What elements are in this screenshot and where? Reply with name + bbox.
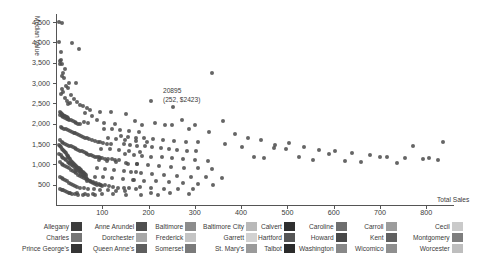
data-point	[149, 99, 153, 103]
data-point	[98, 110, 102, 114]
legend-item-label: Garrett	[224, 234, 247, 241]
data-point	[297, 155, 301, 159]
data-point	[163, 123, 167, 127]
data-point	[167, 147, 171, 151]
data-point	[149, 186, 153, 190]
data-point	[145, 140, 149, 144]
legend-item-label: Frederick	[156, 234, 185, 241]
data-point	[108, 147, 112, 151]
y-tick-mark	[53, 63, 56, 64]
legend-swatch	[136, 244, 147, 253]
legend-item[interactable]: Somerset	[155, 243, 196, 254]
data-point	[185, 149, 189, 153]
data-point	[150, 172, 154, 176]
data-point	[93, 175, 97, 179]
data-point	[176, 187, 180, 191]
legend-item[interactable]: Calvert	[258, 221, 295, 232]
data-point	[436, 158, 440, 162]
data-point	[109, 110, 113, 114]
legend-column: CarolineHowardWashington	[299, 221, 347, 254]
data-point	[105, 159, 109, 163]
legend-column: AlleganyCharlesPrince George's	[22, 221, 82, 254]
legend-item[interactable]: Hartford	[258, 232, 295, 243]
data-point	[90, 114, 94, 118]
legend-item-label: Worcester	[420, 245, 452, 252]
legend-swatch	[452, 233, 463, 242]
legend-item[interactable]: Montgomery	[413, 232, 463, 243]
data-point	[122, 142, 126, 146]
legend-item-label: Prince George's	[22, 245, 71, 252]
legend-item[interactable]: Wicomico	[355, 243, 397, 254]
data-point	[133, 119, 137, 123]
x-axis-line	[56, 205, 454, 206]
legend-item[interactable]: Baltimore	[155, 221, 196, 232]
legend-item[interactable]: St. Mary's	[203, 243, 257, 254]
data-point	[66, 86, 70, 90]
data-point	[66, 102, 70, 106]
data-point	[134, 139, 138, 143]
data-point	[421, 157, 425, 161]
data-point	[154, 179, 158, 183]
data-point	[60, 62, 64, 66]
legend-item[interactable]: Dorchester	[93, 232, 147, 243]
data-point	[167, 180, 171, 184]
legend-swatch	[336, 233, 347, 242]
legend-item[interactable]: Prince George's	[22, 243, 82, 254]
data-point	[427, 156, 431, 160]
legend-item[interactable]: Caroline	[299, 221, 347, 232]
data-point	[112, 168, 116, 172]
data-point	[210, 167, 214, 171]
data-point	[196, 166, 200, 170]
x-tick-label: 300	[181, 209, 209, 216]
data-point	[140, 154, 144, 158]
data-point	[111, 192, 115, 196]
legend-item[interactable]: Talbot	[258, 243, 295, 254]
data-point	[134, 187, 138, 191]
legend-item[interactable]: Kent	[355, 232, 397, 243]
legend-item-label: St. Mary's	[215, 245, 246, 252]
legend-item[interactable]: Baltimore City	[203, 221, 257, 232]
data-point	[134, 170, 138, 174]
data-point	[172, 139, 176, 143]
data-point	[117, 148, 121, 152]
y-tick-mark	[53, 42, 56, 43]
data-point	[193, 158, 197, 162]
data-point	[196, 182, 200, 186]
legend-item-label: Kent	[370, 234, 386, 241]
legend-item[interactable]: Queen Anne's	[93, 243, 147, 254]
data-point	[189, 175, 193, 179]
legend-swatch	[136, 233, 147, 242]
x-tick-mark	[149, 206, 150, 209]
legend-item-label: Carroll	[364, 223, 385, 230]
data-point	[184, 140, 188, 144]
data-point	[171, 105, 175, 109]
legend-item[interactable]: Charles	[22, 232, 82, 243]
data-point	[81, 193, 85, 197]
data-point	[359, 160, 363, 164]
legend-item[interactable]: Garrett	[203, 232, 257, 243]
legend-item-label: Montgomery	[413, 234, 452, 241]
legend-swatch	[136, 222, 147, 231]
legend-item[interactable]: Allegany	[22, 221, 82, 232]
legend-swatch	[336, 222, 347, 231]
legend-column: BaltimoreFrederickSomerset	[155, 221, 196, 254]
data-point	[59, 92, 63, 96]
legend-item[interactable]: Frederick	[155, 232, 196, 243]
legend-item[interactable]: Howard	[299, 232, 347, 243]
y-tick-mark	[53, 144, 56, 145]
y-tick-label: 500	[6, 181, 50, 188]
data-point	[196, 140, 200, 144]
legend-swatch	[284, 233, 295, 242]
legend-item[interactable]: Washington	[299, 243, 347, 254]
legend-item[interactable]: Anne Arundel	[93, 221, 147, 232]
legend-item[interactable]: Worcester	[413, 243, 463, 254]
legend-item-label: Baltimore City	[203, 223, 246, 230]
data-point	[246, 136, 250, 140]
x-tick-mark	[102, 206, 103, 209]
legend-item[interactable]: Carroll	[355, 221, 397, 232]
legend-item[interactable]: Cecil	[413, 221, 463, 232]
legend-item-label: Washington	[299, 245, 336, 252]
data-point	[138, 150, 142, 154]
data-point	[194, 149, 198, 153]
data-point	[100, 192, 104, 196]
